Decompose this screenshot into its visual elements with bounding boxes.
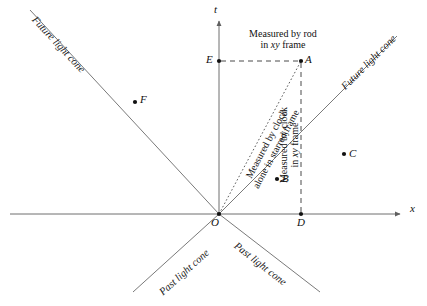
event-dot-E <box>217 59 221 63</box>
event-label-F: F <box>140 93 147 105</box>
t-axis-label: t <box>214 3 217 15</box>
clock-xy-annotation-line1: Measured by clock <box>278 90 289 200</box>
rod-annotation-line2: in xy frame <box>228 39 338 50</box>
x-axis-label: x <box>410 202 415 214</box>
rod-annotation-line1: Measured by rod <box>228 28 338 39</box>
spacetime-diagram: t x A B C D E F O Future light cone Futu… <box>0 0 427 306</box>
event-label-E: E <box>206 53 213 65</box>
rod-annotation-line2-post: frame <box>280 39 306 50</box>
event-label-C: C <box>349 147 356 159</box>
event-dot-A <box>299 59 303 63</box>
event-label-D: D <box>297 216 305 228</box>
clock-xy-measurement-annotation: Measured by clock in xy frame <box>278 90 300 200</box>
clock-xy-annotation-line2-pre: in <box>289 157 300 167</box>
clock-xy-annotation-line2: in xy frame <box>289 90 300 200</box>
clock-xy-annotation-line2-post: frame <box>289 123 300 149</box>
event-dot-F <box>133 100 137 104</box>
clock-xy-annotation-line2-italic: xy <box>289 148 300 157</box>
event-label-O: O <box>211 216 219 228</box>
rod-annotation-line2-pre: in <box>261 39 271 50</box>
rod-measurement-annotation: Measured by rod in xy frame <box>228 28 338 50</box>
event-label-A: A <box>305 53 312 65</box>
rod-annotation-line2-italic: xy <box>271 39 280 50</box>
event-dot-C <box>342 152 346 156</box>
